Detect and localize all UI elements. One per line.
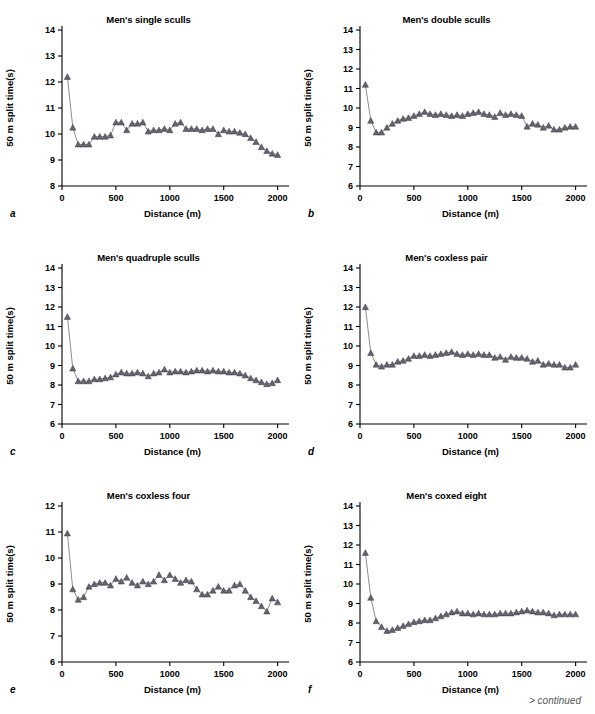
y-axis-label: 50 m split time(s) (4, 545, 15, 623)
data-point-marker (362, 304, 368, 310)
chart-panel-b: Men's double sculls678910111213140500100… (298, 0, 595, 238)
data-point-marker (438, 613, 444, 619)
data-point-marker (449, 349, 455, 355)
data-point-marker (64, 314, 70, 320)
y-tick-label: 14 (45, 263, 55, 273)
x-tick-label: 500 (406, 431, 421, 441)
data-point-marker (475, 109, 481, 115)
y-tick-label: 8 (50, 380, 55, 390)
data-point-marker (210, 587, 216, 593)
data-point-marker (70, 124, 76, 130)
data-point-marker (373, 361, 379, 367)
data-point-marker (113, 576, 119, 582)
data-point-marker (80, 594, 86, 600)
y-tick-label: 9 (50, 361, 55, 371)
y-tick-label: 10 (343, 103, 353, 113)
y-tick-label: 9 (50, 155, 55, 165)
y-tick-label: 6 (348, 419, 353, 429)
y-tick-label: 11 (45, 322, 55, 332)
y-tick-label: 9 (348, 361, 353, 371)
data-point-marker (443, 611, 449, 617)
y-tick-label: 14 (343, 25, 353, 35)
data-point-marker (177, 119, 183, 125)
panel-letter-f: f (308, 684, 311, 695)
data-point-marker (475, 610, 481, 616)
x-tick-label: 1000 (458, 669, 478, 679)
y-tick-label: 8 (348, 380, 353, 390)
data-point-marker (215, 584, 221, 590)
data-point-marker (124, 574, 130, 580)
x-axis-label: Distance (m) (442, 684, 499, 695)
x-tick-label: 1000 (160, 669, 180, 679)
data-point-marker (535, 358, 541, 364)
data-point-marker (411, 113, 417, 119)
panel-letter-b: b (308, 208, 314, 219)
data-point-marker (161, 126, 167, 132)
panel-letter-e: e (10, 684, 16, 695)
chart-plot-e: 6789101112050010001500200050 m split tim… (0, 476, 297, 714)
data-point-marker (497, 110, 503, 116)
panel-letter-d: d (308, 446, 314, 457)
y-tick-label: 7 (50, 400, 55, 410)
y-tick-label: 11 (343, 322, 353, 332)
y-axis-label: 50 m split time(s) (4, 69, 15, 147)
series-line (365, 85, 575, 133)
y-tick-label: 10 (343, 341, 353, 351)
data-point-marker (432, 615, 438, 621)
data-point-marker (70, 586, 76, 592)
data-point-marker (258, 379, 264, 385)
data-point-marker (253, 598, 259, 604)
y-tick-label: 9 (348, 599, 353, 609)
y-tick-label: 14 (343, 501, 353, 511)
data-point-marker (161, 366, 167, 372)
data-point-marker (546, 122, 552, 128)
data-point-marker (64, 74, 70, 80)
y-tick-label: 12 (45, 77, 55, 87)
y-tick-label: 10 (45, 129, 55, 139)
chart-panel-e: Men's coxless four6789101112050010001500… (0, 476, 297, 714)
x-tick-label: 1500 (214, 669, 234, 679)
x-axis-label: Distance (m) (144, 684, 201, 695)
series-line (67, 77, 277, 155)
data-point-marker (422, 352, 428, 358)
x-tick-label: 2000 (268, 193, 288, 203)
data-point-marker (172, 576, 178, 582)
x-tick-label: 500 (406, 669, 421, 679)
data-point-marker (524, 607, 530, 613)
y-tick-label: 9 (348, 123, 353, 133)
chart-panel-c: Men's quadruple sculls678910111213140500… (0, 238, 297, 476)
y-tick-label: 14 (45, 25, 55, 35)
data-point-marker (475, 351, 481, 357)
data-point-marker (368, 350, 374, 356)
data-point-marker (167, 572, 173, 578)
x-tick-label: 2000 (566, 669, 586, 679)
data-point-marker (454, 608, 460, 614)
data-point-marker (422, 109, 428, 115)
data-point-marker (107, 132, 113, 138)
data-point-marker (264, 148, 270, 154)
data-point-marker (400, 623, 406, 629)
data-point-marker (389, 627, 395, 633)
data-point-marker (416, 111, 422, 117)
y-tick-label: 6 (348, 181, 353, 191)
chart-title-e: Men's coxless four (0, 490, 297, 501)
x-axis-label: Distance (m) (442, 208, 499, 219)
data-point-marker (400, 358, 406, 364)
data-point-marker (64, 530, 70, 536)
x-tick-label: 2000 (566, 431, 586, 441)
data-point-marker (253, 377, 259, 383)
y-tick-label: 6 (50, 657, 55, 667)
x-tick-label: 500 (108, 431, 123, 441)
x-tick-label: 500 (108, 669, 123, 679)
x-tick-label: 1500 (214, 431, 234, 441)
chart-panel-f: Men's coxed eight67891011121314050010001… (298, 476, 595, 714)
chart-title-f: Men's coxed eight (298, 490, 595, 501)
data-point-marker (405, 621, 411, 627)
y-tick-label: 8 (50, 605, 55, 615)
data-point-marker (546, 360, 552, 366)
data-point-marker (395, 118, 401, 124)
y-tick-label: 13 (45, 283, 55, 293)
y-tick-label: 7 (348, 162, 353, 172)
x-tick-label: 1000 (160, 431, 180, 441)
y-tick-label: 12 (343, 64, 353, 74)
